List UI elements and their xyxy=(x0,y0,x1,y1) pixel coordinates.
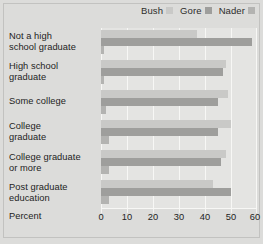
category-label-0-line1: Not a high xyxy=(9,31,101,42)
gridline-50 xyxy=(231,28,232,209)
bar-bush-3 xyxy=(101,120,231,128)
category-label-1-line1: High school xyxy=(9,61,101,72)
bar-bush-5 xyxy=(101,180,213,188)
x-tick-label-0: 0 xyxy=(98,212,103,222)
x-axis-title: Percent xyxy=(9,211,41,221)
category-label-2-line1: Some college xyxy=(9,96,101,107)
x-tick-label-50: 50 xyxy=(226,212,236,222)
legend-swatch-bush xyxy=(166,7,173,14)
legend-label-nader: Nader xyxy=(219,5,245,16)
bar-nader-1 xyxy=(101,76,104,84)
bar-gore-3 xyxy=(101,128,218,136)
category-label-1: High school graduate xyxy=(9,61,101,82)
category-label-0: Not a high school graduate xyxy=(9,31,101,52)
bar-bush-0 xyxy=(101,30,197,38)
x-tick-label-60: 60 xyxy=(250,212,260,222)
category-label-4: College graduate or more xyxy=(9,152,101,173)
x-tick-label-30: 30 xyxy=(174,212,184,222)
category-label-3-line1: College xyxy=(9,121,101,132)
legend-label-bush: Bush xyxy=(141,5,163,16)
legend-item-bush: Bush xyxy=(141,5,173,16)
x-tick-label-20: 20 xyxy=(148,212,158,222)
bar-gore-4 xyxy=(101,158,221,166)
bar-gore-1 xyxy=(101,68,223,76)
bar-nader-0 xyxy=(101,46,104,54)
bar-gore-2 xyxy=(101,98,218,106)
category-label-4-line1: College graduate xyxy=(9,152,101,163)
category-label-5-line2: education xyxy=(9,193,101,204)
bar-nader-5 xyxy=(101,196,109,204)
bar-bush-4 xyxy=(101,150,226,158)
bar-bush-2 xyxy=(101,90,228,98)
bar-nader-4 xyxy=(101,166,109,174)
chart-figure: Bush Gore Nader Not a high school gradua… xyxy=(0,0,263,244)
x-tick-label-40: 40 xyxy=(200,212,210,222)
legend-swatch-gore xyxy=(205,7,212,14)
category-label-5-line1: Post graduate xyxy=(9,182,101,193)
chart-legend: Bush Gore Nader xyxy=(141,5,255,16)
bar-gore-0 xyxy=(101,38,252,46)
legend-item-gore: Gore xyxy=(180,5,212,16)
category-label-0-line2: school graduate xyxy=(9,42,101,53)
legend-label-gore: Gore xyxy=(180,5,202,16)
x-tick-label-10: 10 xyxy=(122,212,132,222)
bar-nader-3 xyxy=(101,136,109,144)
category-label-3: College graduate xyxy=(9,121,101,142)
category-label-1-line2: graduate xyxy=(9,72,101,83)
category-label-4-line2: or more xyxy=(9,163,101,174)
category-label-5: Post graduate education xyxy=(9,182,101,203)
plot-area xyxy=(101,28,257,209)
bar-gore-5 xyxy=(101,188,231,196)
bar-nader-2 xyxy=(101,106,106,114)
bar-bush-1 xyxy=(101,60,226,68)
category-label-3-line2: graduate xyxy=(9,132,101,143)
category-label-2: Some college xyxy=(9,96,101,107)
legend-item-nader: Nader xyxy=(219,5,255,16)
gridline-60 xyxy=(256,28,257,209)
legend-swatch-nader xyxy=(248,7,255,14)
